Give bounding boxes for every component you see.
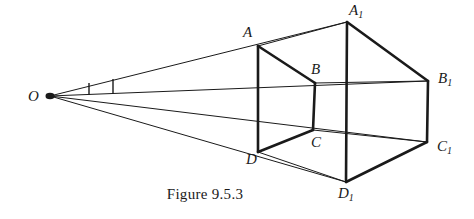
vertex-label-subscript: 1: [447, 145, 452, 156]
vertex-label-a1: A1: [349, 3, 363, 18]
vertex-label-text: A: [243, 24, 252, 40]
vertex-label-c1: C1: [437, 139, 452, 154]
center-point-O: [46, 93, 55, 99]
vertex-label-a: A: [243, 25, 252, 40]
edge-A1-D1: [346, 22, 347, 182]
vertex-label-text: D: [246, 151, 257, 167]
vertex-label-text: B: [311, 61, 320, 77]
figure-container: OABCDA1B1C1D1 Figure 9.5.3: [0, 0, 474, 219]
vertex-label-d: D: [246, 152, 257, 167]
figure-caption: Figure 9.5.3: [0, 186, 410, 203]
vertex-label-text: C: [311, 134, 321, 150]
edge-B1-C1: [427, 81, 428, 142]
vertex-label-text: O: [28, 88, 39, 104]
vertex-label-subscript: 1: [447, 77, 452, 88]
center-point-group: [46, 93, 55, 99]
vertex-label-text: B: [438, 70, 447, 86]
vertex-label-b1: B1: [438, 71, 452, 86]
vertex-label-b: B: [311, 62, 320, 77]
vertex-label-subscript: 1: [358, 9, 363, 20]
vertex-label-c: C: [311, 135, 321, 150]
vertex-label-text: A: [349, 2, 358, 18]
vertex-label-text: C: [437, 138, 447, 154]
vertex-label-o: O: [28, 89, 39, 104]
